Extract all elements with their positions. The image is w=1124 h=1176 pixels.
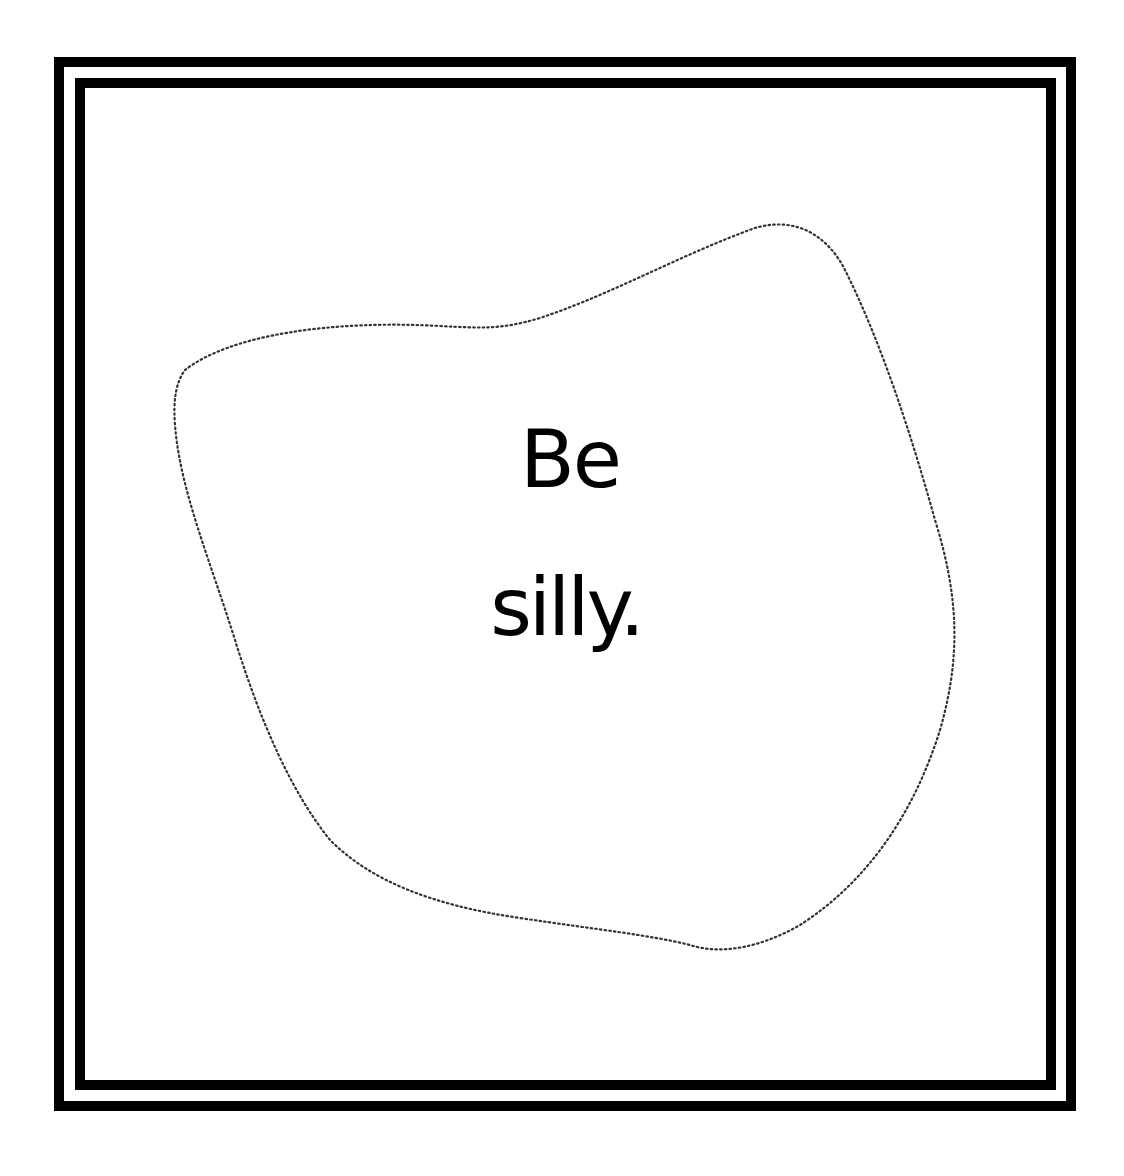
message-line-2: silly. (4, 568, 1124, 648)
message-line-1: Be (8, 420, 1124, 500)
